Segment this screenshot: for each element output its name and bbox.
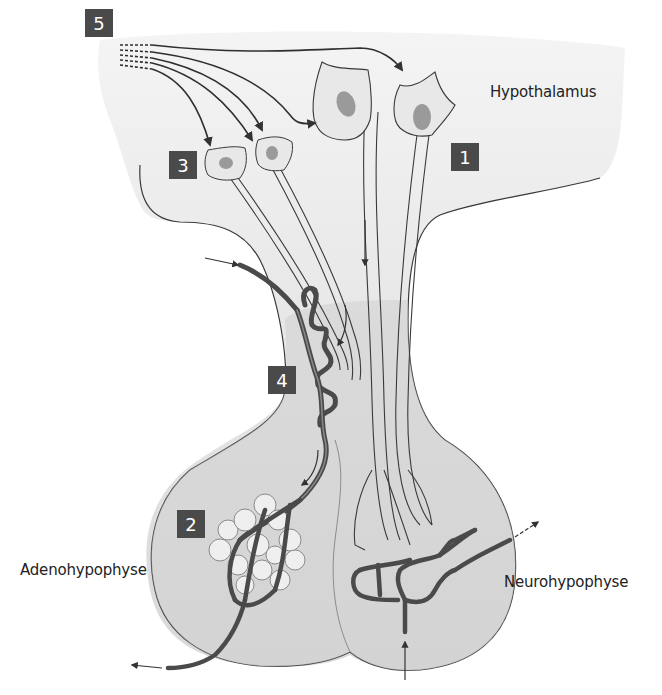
marker-2: 2 [177,510,205,538]
marker-5: 5 [85,9,113,37]
label-adenohypophyse: Adenohypophyse [20,561,147,579]
small-neuron-1 [205,147,246,180]
marker-3: 3 [169,151,197,179]
marker-1: 1 [451,143,479,171]
label-hypothalamus: Hypothalamus [490,83,596,101]
marker-4: 4 [268,366,296,394]
large-neuron-1 [313,62,371,140]
nucleus [219,157,233,169]
vessel-out-arrow [132,665,162,668]
label-neurohypophyse: Neurohypophyse [504,573,628,591]
nucleus [413,104,431,130]
vessel-in-arrow [205,258,238,265]
nucleus [266,146,278,160]
vessel-out-arrow-neuro [515,522,538,537]
small-neuron-2 [256,137,293,171]
